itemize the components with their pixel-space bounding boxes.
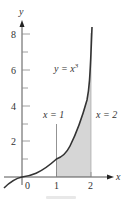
tick-label-y6: 6 [11,65,16,76]
tick-label-x0: 0 [25,180,30,191]
x-axis-arrow-icon [107,175,114,180]
x-axis-label: x [115,171,121,182]
tick-label-y4: 4 [11,101,16,112]
y-axis-label: y [18,6,24,17]
tick-label-y2: 2 [11,136,16,147]
figure-caption [46,196,76,199]
tick-label-x1: 1 [54,180,59,191]
curve-label: y = x3 [53,62,79,74]
y-ticks [22,34,30,159]
label-x-equals-1: x = 1 [42,109,64,120]
figure: y x 8 6 4 2 0 1 2 y = x3 x = 1 x = 2 [0,0,126,204]
label-x-equals-2: x = 2 [95,109,117,120]
y-axis-arrow-icon [20,20,25,27]
tick-label-y8: 8 [11,29,16,40]
tick-label-x2: 2 [88,180,93,191]
cubic-area-chart: y x 8 6 4 2 0 1 2 y = x3 x = 1 x = 2 [0,0,126,204]
